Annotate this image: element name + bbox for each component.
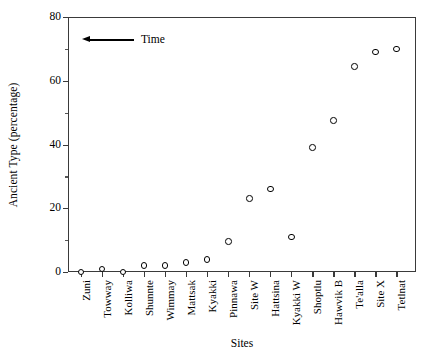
data-point (309, 144, 316, 151)
data-point (162, 262, 169, 269)
x-tick-label: Te'alla (353, 280, 364, 309)
x-tick (396, 272, 397, 277)
y-tick-major (63, 81, 68, 82)
x-tick (102, 272, 103, 277)
x-tick-label: Hawvik B (332, 280, 343, 325)
y-axis-title: Ancient Type (percentage) (0, 0, 26, 290)
x-tick (165, 272, 166, 277)
x-tick-label: Shoptlu (311, 280, 322, 314)
x-tick-label: Kyakki W (290, 280, 301, 325)
time-direction-annotation: Time (82, 33, 165, 47)
x-tick (207, 272, 208, 277)
x-tick (312, 272, 313, 277)
x-tick-label: Shunnte (143, 280, 154, 316)
y-tick-label: 40 (50, 139, 62, 151)
y-tick-minor (65, 49, 68, 50)
x-tick (186, 272, 187, 277)
y-tick-label: 80 (50, 11, 62, 23)
y-tick-major (63, 145, 68, 146)
y-tick-minor (65, 240, 68, 241)
y-tick-minor (65, 113, 68, 114)
x-tick-label: Towway (101, 280, 112, 318)
data-point (225, 238, 232, 245)
y-tick-minor (65, 176, 68, 177)
scatter-chart-figure: Ancient Type (percentage) Time 020406080… (0, 0, 446, 357)
plot-frame-top (68, 17, 416, 18)
y-tick-major (63, 17, 68, 18)
data-point (288, 234, 295, 241)
data-point (204, 256, 211, 263)
y-axis-title-text: Ancient Type (percentage) (7, 83, 19, 208)
left-arrow-icon (82, 35, 134, 45)
data-point (183, 259, 190, 266)
x-tick-label: Kolliwa (122, 280, 133, 315)
x-tick-label: Mattsak (185, 280, 196, 315)
x-tick (228, 272, 229, 277)
data-point (351, 63, 358, 70)
x-tick-label: Pinnawa (227, 280, 238, 318)
y-tick-label: 60 (50, 75, 62, 87)
x-tick (144, 272, 145, 277)
y-axis-line (68, 17, 69, 272)
y-tick-label: 0 (55, 266, 61, 278)
data-point (78, 269, 85, 276)
data-point (393, 46, 400, 53)
data-point (120, 269, 127, 276)
x-tick (249, 272, 250, 277)
arrow-head (82, 36, 90, 42)
x-tick (375, 272, 376, 277)
x-tick (354, 272, 355, 277)
x-tick-label: Wimmay (164, 280, 175, 321)
y-tick-major (63, 208, 68, 209)
x-tick-label: Zuni (80, 280, 91, 301)
x-tick-label: Site W (248, 280, 259, 310)
y-tick-label: 20 (50, 203, 62, 215)
plot-area: Time 020406080 ZuniTowwayKolliwaShunnteW… (68, 17, 416, 272)
x-tick (333, 272, 334, 277)
x-tick-label: Tetlnat (395, 280, 406, 310)
x-axis-title: Sites (68, 337, 416, 349)
data-point (330, 117, 337, 124)
x-tick (291, 272, 292, 277)
x-tick-label: Hattsina (269, 280, 280, 317)
x-tick (270, 272, 271, 277)
y-tick-major (63, 272, 68, 273)
arrow-shaft (88, 39, 134, 41)
data-point (246, 195, 253, 202)
data-point (267, 186, 274, 193)
data-point (141, 262, 148, 269)
x-axis-title-text: Sites (231, 337, 253, 349)
x-tick-label: Kyakki (206, 280, 217, 312)
x-tick-label: Site X (374, 280, 385, 308)
plot-frame-right (415, 17, 416, 272)
data-point (372, 49, 379, 56)
time-annotation-label: Time (141, 34, 165, 46)
